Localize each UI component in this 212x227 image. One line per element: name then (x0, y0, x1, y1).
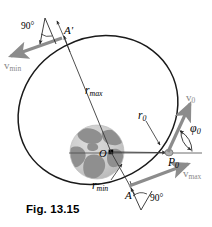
angle-bottom-label: 90° (150, 194, 163, 204)
r-zero-line (113, 152, 166, 153)
perigee-point-label: A (125, 190, 132, 201)
phi-zero-label: φ0 (190, 122, 201, 136)
apogee-point-label: A' (64, 25, 73, 36)
launch-point-label: P0 (168, 157, 179, 170)
figure-13-15: 90° A' vmin rmax r0 v0 φ0 O P0 vmax rmin… (0, 0, 212, 227)
v-max-label: vmax (183, 168, 201, 180)
v-min-label: vmin (4, 60, 21, 72)
figure-caption: Fig. 13.15 (26, 203, 79, 215)
v-zero-arrow (168, 104, 190, 152)
r-zero-leader-line (146, 121, 160, 145)
perigee-leader-line (130, 181, 131, 184)
v-zero-label: v0 (186, 92, 195, 104)
v-max-arrow (129, 164, 188, 186)
r-max-label: rmax (85, 85, 103, 98)
r-min-label: rmin (92, 180, 108, 193)
angle-top-label: 90° (21, 22, 34, 32)
r-zero-label: r0 (138, 110, 146, 123)
center-point-label: O (99, 149, 107, 160)
angle-bottom-marker (131, 188, 152, 210)
